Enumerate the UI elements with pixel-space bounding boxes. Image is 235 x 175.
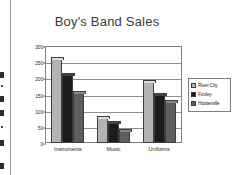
toolbar-button-1[interactable] [0, 72, 4, 78]
bar[interactable] [154, 95, 165, 144]
bar[interactable] [108, 123, 119, 143]
legend-item[interactable]: Foxley [191, 90, 228, 98]
bar-top-cap [51, 57, 64, 60]
bar[interactable] [143, 82, 154, 143]
toolbar-button-6[interactable] [0, 140, 4, 146]
toolbar-button-5[interactable] [1, 126, 3, 128]
x-axis-category-label: Instruments [45, 146, 91, 152]
legend-item[interactable]: Hooterville [191, 99, 228, 107]
bar-top-cap [119, 129, 132, 132]
y-axis-tick-label: 150 [35, 93, 43, 99]
chart-document-canvas: Boy's Band Sales 050100150200250300 Inst… [0, 0, 235, 175]
legend-label: Hooterville [198, 100, 219, 106]
y-axis-tick-label: 100 [35, 109, 43, 115]
y-axis-tick-mark [43, 144, 46, 145]
y-axis-tick-label: 0 [40, 141, 43, 147]
bar-top-cap [62, 73, 75, 76]
legend-swatch-icon [191, 101, 196, 106]
y-axis-tick-label: 200 [35, 76, 43, 82]
bar-top-cap [97, 116, 110, 119]
toolbar-button-7[interactable] [0, 163, 4, 169]
bar-top-cap [73, 91, 86, 94]
bar-top-cap [165, 100, 178, 103]
y-axis-tick-label: 300 [35, 44, 43, 50]
chart-title: Boy's Band Sales [16, 14, 198, 29]
toolbar-button-2[interactable] [1, 85, 3, 87]
legend-swatch-icon [191, 92, 196, 97]
legend-label: Foxley [198, 91, 212, 97]
legend-label: River City [198, 82, 218, 88]
bar[interactable] [165, 102, 176, 143]
legend-item[interactable]: River City [191, 81, 228, 89]
toolbar-button-3[interactable] [0, 96, 4, 102]
bar-top-cap [143, 80, 156, 83]
x-axis-category-label: Music [91, 146, 137, 152]
y-axis-tick-label: 50 [38, 125, 43, 131]
legend-swatch-icon [191, 83, 196, 88]
bar[interactable] [73, 93, 84, 143]
bar[interactable] [62, 75, 73, 143]
bar-top-cap [108, 121, 121, 124]
bar-chart[interactable]: Boy's Band Sales 050100150200250300 Inst… [16, 4, 230, 156]
bar-top-cap [154, 93, 167, 96]
cut-off-toolbar[interactable] [0, 0, 9, 175]
bar[interactable] [97, 118, 108, 143]
y-axis-tick-label: 250 [35, 60, 43, 66]
bar[interactable] [119, 131, 130, 143]
bar[interactable] [51, 59, 62, 143]
chart-legend[interactable]: River CityFoxleyHooterville [188, 78, 231, 112]
bars-layer [45, 46, 182, 143]
x-axis-category-label: Uniforms [136, 146, 182, 152]
toolbar-button-4[interactable] [0, 110, 4, 116]
